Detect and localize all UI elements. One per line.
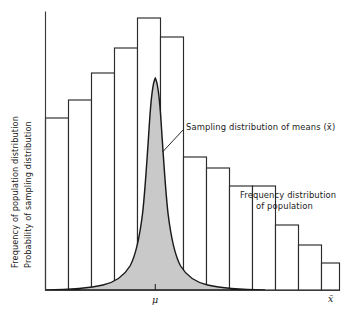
table-row (184, 157, 207, 290)
table-row (207, 168, 230, 290)
table-row (322, 263, 340, 290)
table-row (230, 186, 253, 290)
table-row (92, 73, 115, 290)
sampling-distribution-annotation-label: Sampling distribution of means (x̄) (186, 122, 335, 132)
table-row (46, 118, 69, 290)
table-row (276, 225, 299, 290)
table-row (115, 48, 138, 290)
population-distribution-annotation-line2: of population (256, 201, 313, 211)
y-axis-label-secondary: Probability of sampling distribution (23, 121, 33, 268)
table-row (69, 100, 92, 290)
chart-canvas: Frequency of population distribution Pro… (0, 0, 344, 312)
statistics-chart: Frequency of population distribution Pro… (0, 0, 344, 312)
histogram-bars (46, 18, 340, 290)
x-axis-tick-mu: μ (152, 294, 158, 305)
table-row (299, 245, 322, 290)
y-axis-label-primary: Frequency of population distribution (10, 116, 20, 268)
population-distribution-annotation-line1: Frequency distribution (240, 190, 336, 200)
x-axis-tick-xbar: x̄ (328, 293, 334, 304)
